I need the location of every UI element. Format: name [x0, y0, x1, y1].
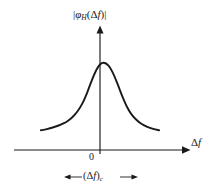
y-axis-group: [97, 26, 104, 155]
y-axis-arrowhead: [97, 26, 104, 34]
figure-canvas: [0, 0, 216, 194]
x-axis-arrowhead: [182, 146, 191, 153]
coherence-bandwidth-arrow: [64, 175, 138, 180]
coherence-arrow-right-head: [132, 175, 139, 180]
x-axis-group: [14, 146, 191, 153]
figure-container: |φH(Δf)| Δf 0 (Δf)c: [0, 0, 216, 194]
coherence-arrow-left-head: [64, 175, 71, 180]
